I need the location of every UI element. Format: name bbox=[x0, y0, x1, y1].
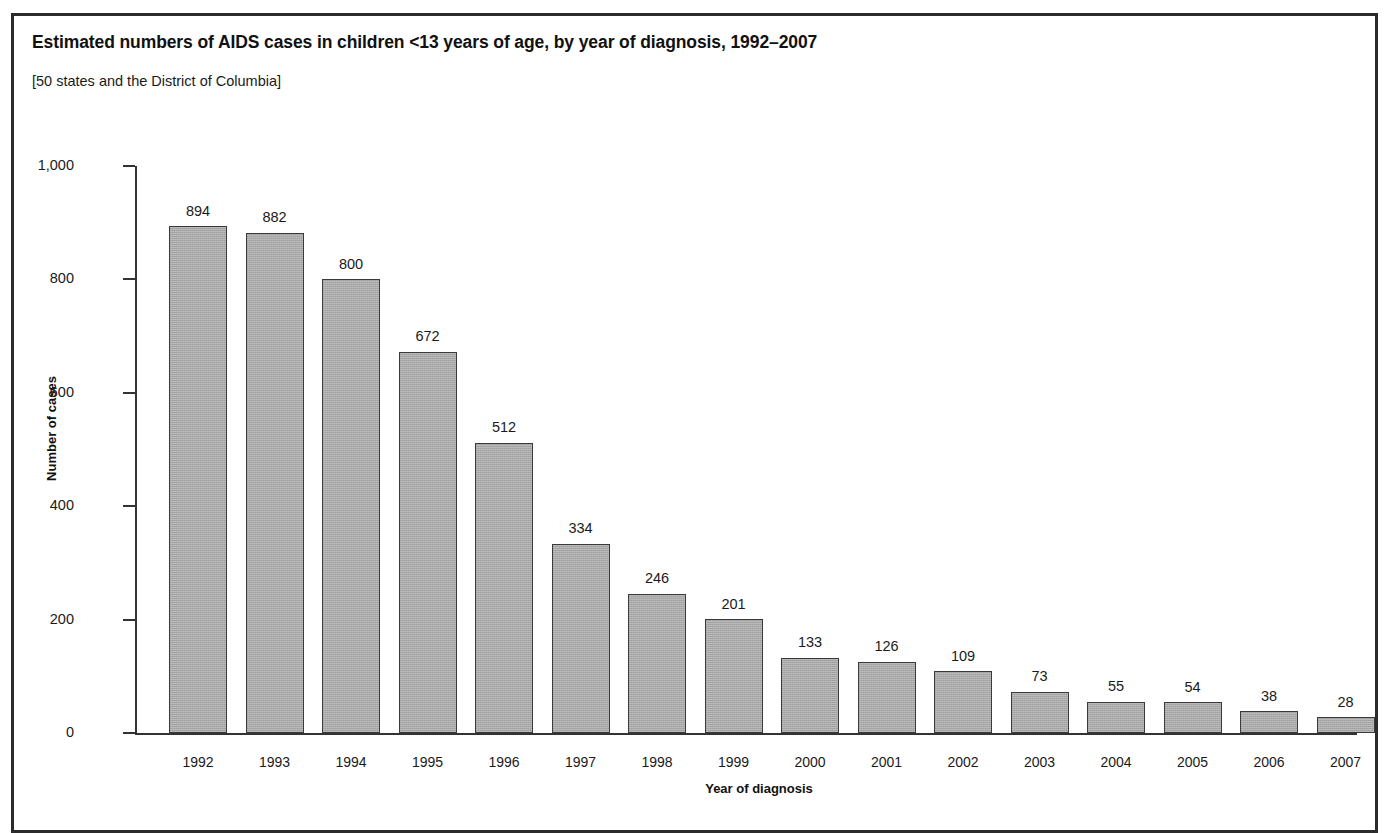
x-axis-tick-label: 1992 bbox=[155, 755, 241, 769]
bar-group[interactable]: 2011999 bbox=[705, 166, 763, 733]
bar-value-label: 334 bbox=[540, 521, 622, 536]
bar[interactable] bbox=[1164, 702, 1222, 733]
bar-group[interactable]: 382006 bbox=[1240, 166, 1298, 733]
bar[interactable] bbox=[781, 658, 839, 733]
bar[interactable] bbox=[475, 443, 533, 733]
bar-group[interactable]: 542005 bbox=[1164, 166, 1222, 733]
bar-value-label: 28 bbox=[1305, 695, 1387, 710]
bars-layer: 8941992882199380019946721995512199633419… bbox=[14, 166, 1375, 733]
plot-area: Number of cases 02004006008001,000 89419… bbox=[14, 16, 1375, 816]
bar[interactable] bbox=[399, 352, 457, 733]
bar-group[interactable]: 2461998 bbox=[628, 166, 686, 733]
bar[interactable] bbox=[169, 226, 227, 733]
bar-value-label: 109 bbox=[922, 649, 1004, 664]
bar[interactable] bbox=[246, 233, 304, 733]
bar-group[interactable]: 5121996 bbox=[475, 166, 533, 733]
bar-value-label: 133 bbox=[769, 635, 851, 650]
x-axis-tick-label: 1993 bbox=[232, 755, 318, 769]
bar[interactable] bbox=[628, 594, 686, 733]
bar-value-label: 882 bbox=[234, 210, 316, 225]
bar-group[interactable]: 552004 bbox=[1087, 166, 1145, 733]
bar-value-label: 54 bbox=[1152, 680, 1234, 695]
bar[interactable] bbox=[705, 619, 763, 733]
bar[interactable] bbox=[858, 662, 916, 733]
bar-value-label: 73 bbox=[999, 669, 1081, 684]
bar-value-label: 126 bbox=[846, 639, 928, 654]
x-axis-tick-label: 2005 bbox=[1150, 755, 1236, 769]
bar-value-label: 246 bbox=[616, 571, 698, 586]
x-axis-line bbox=[135, 733, 1357, 735]
bar-group[interactable]: 732003 bbox=[1011, 166, 1069, 733]
x-axis-tick-label: 2007 bbox=[1303, 755, 1389, 769]
x-axis-tick-label: 1998 bbox=[614, 755, 700, 769]
x-axis-tick-label: 2006 bbox=[1226, 755, 1312, 769]
bar[interactable] bbox=[1011, 692, 1069, 733]
bar-group[interactable]: 1092002 bbox=[934, 166, 992, 733]
bar[interactable] bbox=[1317, 717, 1375, 733]
bar[interactable] bbox=[1087, 702, 1145, 733]
x-axis-title: Year of diagnosis bbox=[134, 781, 1384, 796]
bar-group[interactable]: 282007 bbox=[1317, 166, 1375, 733]
bar-value-label: 38 bbox=[1228, 689, 1310, 704]
bar[interactable] bbox=[552, 544, 610, 733]
x-axis-tick-label: 1999 bbox=[691, 755, 777, 769]
bar-group[interactable]: 1332000 bbox=[781, 166, 839, 733]
chart-figure-frame: Estimated numbers of AIDS cases in child… bbox=[11, 13, 1378, 833]
bar-group[interactable]: 3341997 bbox=[552, 166, 610, 733]
x-axis-tick-label: 2003 bbox=[997, 755, 1083, 769]
x-axis-tick-label: 2004 bbox=[1073, 755, 1159, 769]
bar-value-label: 800 bbox=[310, 257, 392, 272]
bar[interactable] bbox=[1240, 711, 1298, 733]
x-axis-tick-label: 2002 bbox=[920, 755, 1006, 769]
bar-group[interactable]: 6721995 bbox=[399, 166, 457, 733]
x-axis-tick-label: 1995 bbox=[385, 755, 471, 769]
bar[interactable] bbox=[322, 279, 380, 733]
bar-group[interactable]: 8001994 bbox=[322, 166, 380, 733]
x-axis-tick-label: 2001 bbox=[844, 755, 930, 769]
bar[interactable] bbox=[934, 671, 992, 733]
bar-group[interactable]: 1262001 bbox=[858, 166, 916, 733]
bar-value-label: 55 bbox=[1075, 679, 1157, 694]
x-axis-tick-label: 1994 bbox=[308, 755, 394, 769]
x-axis-tick-label: 1997 bbox=[538, 755, 624, 769]
bar-value-label: 201 bbox=[693, 597, 775, 612]
bar-value-label: 512 bbox=[463, 420, 545, 435]
x-axis-tick-label: 2000 bbox=[767, 755, 853, 769]
bar-value-label: 672 bbox=[387, 329, 469, 344]
x-axis-tick-label: 1996 bbox=[461, 755, 547, 769]
bar-group[interactable]: 8941992 bbox=[169, 166, 227, 733]
bar-group[interactable]: 8821993 bbox=[246, 166, 304, 733]
bar-value-label: 894 bbox=[157, 204, 239, 219]
